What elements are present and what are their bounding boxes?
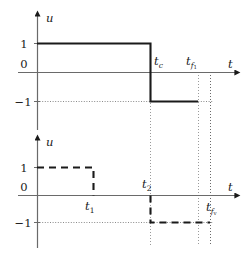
upper-y-axis-label: u (46, 11, 53, 25)
lower-y-axis-label: u (46, 135, 53, 149)
upper-xtick-label-tf1: tf1 (186, 54, 197, 70)
lower-xtick-label-t2: t2 (142, 177, 152, 193)
upper-x-axis-label: t (228, 57, 233, 71)
upper-xtick-label-tc: tc (154, 54, 164, 70)
lower-xtick-label-t1: t1 (85, 199, 94, 215)
lower-ytick-label-one: 1 (20, 161, 27, 175)
lower-xtick-label-tfv: tfv (206, 200, 217, 216)
lower-ytick-label-zero: 0 (20, 180, 27, 194)
t1-sub-glyph: 1 (90, 206, 95, 215)
lower-ytick-label-minus-one: −1 (15, 216, 32, 230)
tf1-subsub-glyph: 1 (193, 64, 197, 70)
upper-ytick-label-one: 1 (20, 37, 27, 51)
signal-figure: u t 1 0 −1 tc tf1 u t 1 0 −1 t1 t2 tfv (0, 0, 249, 260)
lower-signal-trace-2 (151, 196, 211, 223)
tc-sub-glyph: c (159, 61, 164, 70)
upper-ytick-label-zero: 0 (20, 57, 27, 71)
t2-sub-glyph: 2 (147, 184, 152, 193)
tfv-subsub-glyph: v (212, 210, 217, 216)
upper-ytick-label-minus-one: −1 (15, 95, 32, 109)
lower-x-axis-label: t (228, 180, 233, 194)
figure-canvas: u t 1 0 −1 tc tf1 u t 1 0 −1 t1 t2 tfv (0, 0, 249, 260)
lower-signal-trace (37, 168, 94, 196)
